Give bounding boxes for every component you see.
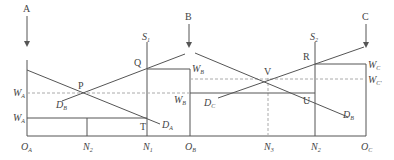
label-wb-upper: WB bbox=[192, 63, 204, 75]
label-wc-prime: WC' bbox=[368, 74, 382, 86]
arrow-c: C bbox=[362, 11, 369, 48]
label-oa: OA bbox=[21, 141, 32, 153]
demand-dc bbox=[218, 47, 364, 98]
point-q: Q bbox=[134, 57, 142, 68]
label-wb-lower: WB bbox=[174, 94, 186, 106]
demand-db-right bbox=[195, 53, 348, 117]
point-r: R bbox=[303, 51, 310, 62]
label-db-right: DB bbox=[342, 109, 354, 121]
point-t: T bbox=[140, 121, 146, 132]
label-da: DA bbox=[161, 119, 173, 131]
label-s2: S2 bbox=[310, 31, 318, 43]
label-n2-left: N2 bbox=[82, 141, 93, 153]
svg-text:C: C bbox=[362, 11, 369, 22]
label-n2-right: N2 bbox=[310, 141, 321, 153]
label-ob: OB bbox=[185, 141, 196, 153]
demand-db-left bbox=[62, 54, 185, 101]
demand-da bbox=[27, 70, 160, 124]
label-oc: OC bbox=[361, 141, 373, 153]
label-wa-upper: WA bbox=[13, 87, 25, 99]
label-n3: N3 bbox=[263, 141, 274, 153]
arrow-a: A bbox=[23, 3, 31, 47]
svg-text:A: A bbox=[23, 3, 31, 14]
label-s1: S1 bbox=[142, 31, 150, 43]
label-dc: DC bbox=[203, 97, 216, 109]
label-wc: WC bbox=[368, 59, 381, 71]
point-u: U bbox=[303, 95, 311, 106]
labor-market-diagram: A B C P Q T V R U S1 S2 WA WA WB bbox=[0, 0, 394, 160]
label-wa-lower: WA bbox=[13, 112, 25, 124]
svg-text:B: B bbox=[185, 11, 192, 22]
point-p: P bbox=[78, 80, 84, 91]
arrow-b: B bbox=[185, 11, 192, 48]
label-db-left: DB bbox=[55, 99, 67, 111]
label-n1: N1 bbox=[142, 141, 153, 153]
point-v: V bbox=[264, 66, 272, 77]
